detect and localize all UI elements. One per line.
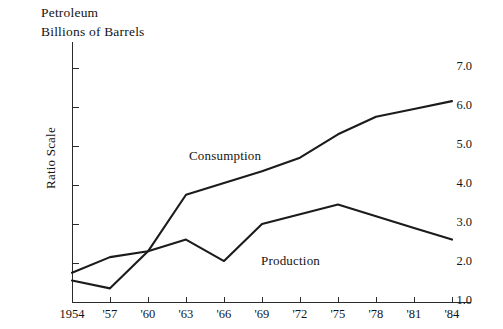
series-line-production bbox=[72, 205, 452, 289]
series-label-production: Production bbox=[261, 253, 320, 269]
chart-page: Petroleum Billions of Barrels Ratio Scal… bbox=[0, 0, 503, 329]
plot-area bbox=[0, 0, 503, 329]
series-label-consumption: Consumption bbox=[189, 148, 261, 164]
series-line-consumption bbox=[72, 101, 452, 273]
